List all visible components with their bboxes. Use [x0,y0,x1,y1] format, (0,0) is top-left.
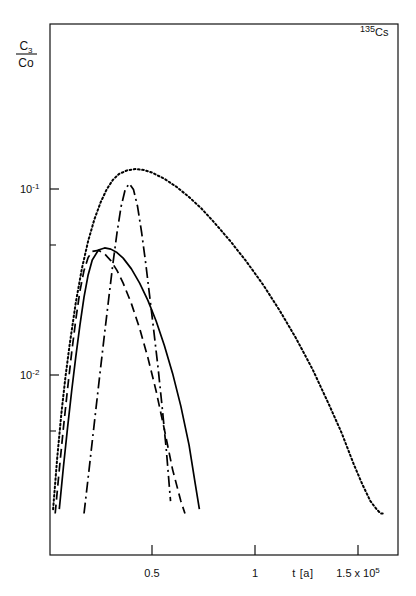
isotope-symbol: Cs [375,26,389,38]
chart-svg: C3 Co 10-1 10-2 0.5 1 1.5 x 105 t [a] 13… [0,0,416,596]
y-axis-numerator: C [19,39,28,53]
x-axis-ticks [152,545,358,555]
y-tick-label-1e-2: 10-2 [20,368,40,381]
x-tick-exponent: 5 [375,566,380,575]
y-axis-denominator: Co [18,56,34,70]
y-axis-label: C3 Co [16,39,37,70]
x-tick-label-1: 1 [252,567,258,579]
data-curves [53,169,385,513]
isotope-mass-number: 135 [360,24,375,34]
x-tick-label-0-5: 0.5 [144,567,159,579]
svg-text:10-2: 10-2 [20,368,40,381]
x-tick-label-1-5e5: 1.5 x 105 [336,566,380,579]
x-tick-mantissa: 1.5 x 10 [336,567,375,579]
plot-frame [50,24,398,555]
y-axis-ticks [50,189,59,431]
curve-dash-dot-curve [84,184,171,514]
chart-figure: C3 Co 10-1 10-2 0.5 1 1.5 x 105 t [a] 13… [0,0,416,596]
svg-text:C3: C3 [19,39,33,55]
isotope-annotation: 135Cs [360,24,389,38]
y-tick-label-1e-1: 10-1 [20,182,40,195]
x-axis-title: t [a] [292,567,313,579]
curve-dashed-curve [55,250,185,513]
svg-text:10-1: 10-1 [20,182,40,195]
